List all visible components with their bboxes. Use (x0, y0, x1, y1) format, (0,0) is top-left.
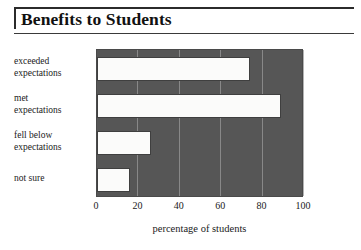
x-tick-label: 60 (215, 200, 225, 212)
plot-area (96, 49, 303, 197)
category-axis-labels: exceededexpectationsmetexpectationsfell … (14, 49, 92, 197)
category-label: metexpectations (14, 93, 92, 116)
gridline (262, 50, 263, 196)
x-tick-label: 40 (174, 200, 184, 212)
x-tick-label: 0 (94, 200, 99, 212)
title-bottom-rule (14, 33, 354, 34)
category-label: not sure (14, 173, 92, 185)
bar (97, 57, 250, 81)
gridline (303, 50, 304, 196)
category-label-line: exceeded (14, 56, 92, 68)
x-tick-label: 20 (132, 200, 142, 212)
category-label: exceededexpectations (14, 56, 92, 79)
x-tick-label: 100 (296, 200, 311, 212)
category-label-line: expectations (14, 105, 92, 117)
x-axis-title: percentage of students (96, 222, 303, 235)
bar (97, 94, 281, 118)
category-label-line: met (14, 93, 92, 105)
bar (97, 168, 130, 192)
category-label-line: fell below (14, 130, 92, 142)
page-title: Benefits to Students (21, 8, 172, 30)
title-left-tick (14, 9, 16, 29)
chart-figure: Benefits to Students exceededexpectation… (0, 0, 361, 250)
category-label-line: not sure (14, 173, 92, 185)
bar (97, 131, 151, 155)
category-label: fell belowexpectations (14, 130, 92, 153)
category-label-line: expectations (14, 142, 92, 154)
category-label-line: expectations (14, 68, 92, 80)
x-tick-label: 80 (257, 200, 267, 212)
